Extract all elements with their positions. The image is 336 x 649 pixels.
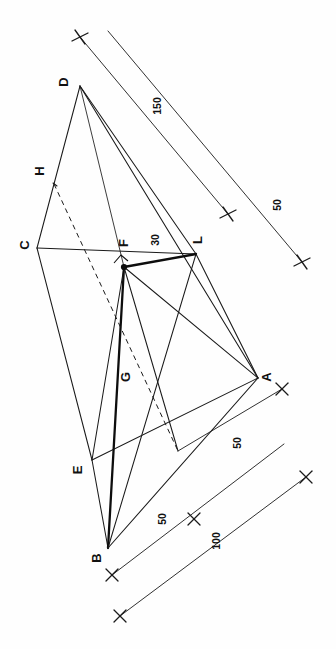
dimension-label-50-lower-mid: 50 — [156, 513, 168, 525]
dimension-150-line — [80, 37, 228, 214]
figure-edges — [37, 86, 258, 548]
geometry-figure: D H C F L A G E B 150 50 30 50 50 100 — [0, 0, 336, 649]
vertex-label-G: G — [118, 372, 133, 382]
vertex-label-C: C — [17, 240, 32, 250]
vertex-label-L: L — [190, 236, 205, 244]
edge-D-L — [80, 86, 196, 254]
drawing-sheet: D H C F L A G E B 150 50 30 50 50 100 — [0, 0, 336, 649]
edge-F-L — [124, 254, 196, 267]
vertex-label-E: E — [70, 465, 85, 474]
dimension-label-50-lower-inner: 50 — [231, 437, 243, 449]
dimension-50-right-line — [108, 31, 302, 262]
dimension-150-tick-end-b — [223, 207, 233, 221]
vertex-dot-F — [121, 264, 127, 270]
vertex-label-H: H — [32, 166, 47, 175]
edge-B-F — [108, 267, 124, 548]
dimension-50-right — [108, 31, 310, 269]
dimension-label-100-lower-outer: 100 — [210, 532, 222, 550]
dimension-50-right-tick-end-b — [297, 255, 307, 269]
vertex-label-A: A — [259, 372, 274, 382]
dimension-label-150: 150 — [151, 97, 163, 115]
dimension-labels: 150 50 30 50 50 100 — [149, 97, 283, 550]
node-markers — [114, 255, 128, 270]
edge-C-L — [37, 248, 196, 254]
edge-L-A — [196, 254, 258, 378]
edge-E-B — [92, 460, 108, 548]
edge-C-E — [37, 248, 92, 460]
dimension-150-tick-start-b — [75, 30, 85, 44]
dimension-label-30: 30 — [149, 234, 161, 246]
vertex-label-F: F — [116, 239, 131, 247]
dimension-50-lower-mid-line — [112, 444, 284, 575]
edge-F-A — [124, 267, 258, 378]
vertex-label-B: B — [89, 553, 104, 562]
edge-F-lower-right — [124, 267, 178, 451]
edge-D-A — [80, 86, 258, 378]
dimension-label-50-right: 50 — [271, 199, 283, 211]
vertex-label-D: D — [56, 77, 71, 86]
edge-B-G-A — [108, 378, 258, 548]
